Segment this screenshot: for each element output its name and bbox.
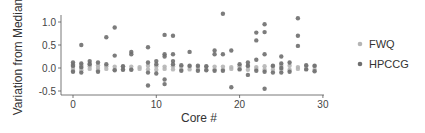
data-point <box>254 38 258 42</box>
data-point <box>262 70 266 74</box>
data-point <box>296 16 300 20</box>
data-point <box>279 61 283 65</box>
data-point <box>312 69 316 73</box>
data-point <box>146 60 150 64</box>
data-point <box>104 35 108 39</box>
data-point <box>204 64 208 68</box>
y-axis: -0.50.00.51.0 <box>39 15 61 97</box>
series-hpccg <box>71 12 317 91</box>
data-point <box>229 85 233 89</box>
data-point <box>246 68 250 72</box>
legend-item-hpccg: HPCCG <box>358 58 409 70</box>
data-point <box>171 52 175 56</box>
data-point <box>254 69 258 73</box>
data-point <box>71 70 75 74</box>
data-point <box>196 63 200 67</box>
data-point <box>79 65 83 69</box>
data-point <box>296 34 300 38</box>
data-point <box>129 68 133 72</box>
data-point <box>254 30 258 34</box>
y-tick-label: 1.0 <box>42 17 56 28</box>
data-point <box>154 71 158 75</box>
x-ticks: 0102030 <box>70 95 329 110</box>
data-point <box>271 70 275 74</box>
data-point <box>262 22 266 26</box>
data-point <box>279 66 283 70</box>
data-point <box>287 70 291 74</box>
y-tick-label: 0.5 <box>42 40 56 51</box>
x-axis-title: Core # <box>181 111 217 125</box>
data-point <box>79 43 83 47</box>
data-point <box>179 63 183 67</box>
data-point <box>146 45 150 49</box>
data-point <box>96 60 100 64</box>
data-point <box>146 70 150 74</box>
data-point <box>237 67 241 71</box>
data-point <box>296 44 300 48</box>
data-point <box>162 77 166 81</box>
data-point <box>262 30 266 34</box>
data-point <box>162 54 166 58</box>
data-point <box>279 54 283 58</box>
data-point <box>196 69 200 73</box>
legend-marker-hpccg-icon <box>358 62 363 67</box>
data-point <box>162 33 166 37</box>
data-point <box>171 34 175 38</box>
x-axis: 0102030 <box>61 95 329 110</box>
data-point <box>187 50 191 54</box>
legend-item-fwq: FWQ <box>358 38 395 50</box>
data-point <box>221 69 225 73</box>
y-tick-label: 0.0 <box>42 63 56 74</box>
y-axis-title: Variation from Median <box>11 0 25 115</box>
data-point <box>204 68 208 72</box>
data-point <box>246 73 250 77</box>
data-point <box>212 69 216 73</box>
data-point <box>229 48 233 52</box>
data-point <box>287 60 291 64</box>
data-point <box>129 52 133 56</box>
data-point <box>187 63 191 67</box>
data-point <box>312 63 316 67</box>
data-point <box>88 62 92 66</box>
data-point <box>113 53 117 57</box>
data-points <box>71 12 317 91</box>
data-point <box>179 69 183 73</box>
data-point <box>137 67 141 71</box>
data-point <box>171 62 175 66</box>
data-point <box>71 63 75 67</box>
data-point <box>254 58 258 62</box>
data-point <box>113 25 117 29</box>
data-point <box>171 67 175 71</box>
data-point <box>221 52 225 56</box>
data-point <box>262 52 266 56</box>
data-point <box>304 67 308 71</box>
data-point <box>154 62 158 66</box>
data-point <box>121 68 125 72</box>
x-tick-label: 20 <box>234 99 246 110</box>
data-point <box>229 67 233 71</box>
data-point <box>113 68 117 72</box>
data-point <box>104 67 108 71</box>
data-point <box>162 82 166 86</box>
data-point <box>221 12 225 16</box>
data-point <box>271 63 275 67</box>
legend: FWQ HPCCG <box>358 38 409 70</box>
data-point <box>237 62 241 66</box>
legend-marker-fwq-icon <box>358 42 363 47</box>
y-tick-label: -0.5 <box>39 86 57 97</box>
data-point <box>104 62 108 66</box>
data-point <box>262 87 266 91</box>
data-point <box>162 67 166 71</box>
data-point <box>79 70 83 74</box>
x-tick-label: 0 <box>70 99 76 110</box>
x-tick-label: 30 <box>317 99 329 110</box>
x-tick-label: 10 <box>151 99 163 110</box>
data-point <box>246 63 250 67</box>
legend-label-hpccg: HPCCG <box>369 58 409 70</box>
y-ticks: -0.50.00.51.0 <box>39 17 61 97</box>
scatter-chart: -0.50.00.51.0 0102030 Core # Variation f… <box>0 0 425 133</box>
data-point <box>88 67 92 71</box>
data-point <box>296 67 300 71</box>
data-point <box>96 70 100 74</box>
data-point <box>212 52 216 56</box>
